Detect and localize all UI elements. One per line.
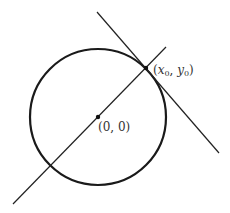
origin-point xyxy=(96,115,100,119)
tangent-point-label: (x0, y0) xyxy=(153,63,194,78)
tangent-circle-diagram: (0, 0) (x0, y0) xyxy=(0,0,230,213)
radial-line xyxy=(13,47,166,204)
origin-label: (0, 0) xyxy=(98,120,130,134)
tangent-point xyxy=(144,66,148,70)
